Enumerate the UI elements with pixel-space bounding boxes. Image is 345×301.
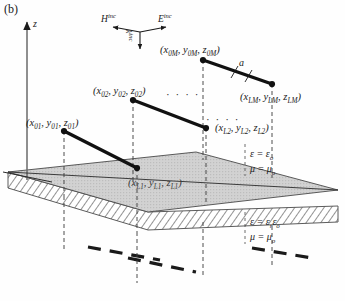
h-inc-symbol: H (101, 14, 108, 24)
dipole-rod-middle (133, 100, 206, 128)
k-inc-superscript: inc (128, 33, 135, 41)
coord-01-y-sub: 01 (51, 123, 58, 131)
upper-eps-symbol: ε (250, 148, 254, 159)
panel-label: (b) (4, 3, 18, 16)
coord-02-z-sub: 02 (135, 91, 142, 99)
image-dipole-1 (88, 247, 160, 260)
lower-eps-symbol: ε (250, 216, 254, 227)
coord-label-0M: (x0M, y0M, z0M) (160, 44, 220, 59)
coord-0M-y-sub: 0M (188, 50, 198, 58)
coord-label-01: (x01, y01, z01) (26, 117, 79, 132)
z-axis-label: z (33, 19, 37, 30)
coord-0M-x-sub: 0M (168, 50, 178, 58)
e-inc-arrow (140, 27, 166, 32)
coord-01-x-sub: 01 (34, 123, 41, 131)
coord-label-LM: (xLM, yLM, zLM) (240, 91, 301, 106)
coord-02-y-sub: 02 (118, 91, 125, 99)
upper-eps-value-sub: o (270, 154, 274, 162)
ellipsis-row-upper: · · · · (166, 88, 200, 100)
coord-02-x-sub: 02 (101, 91, 108, 99)
h-inc-superscript: inc (108, 12, 116, 19)
upper-epsilon-line: ε = εo (250, 148, 275, 163)
dipole-rod-top (203, 60, 272, 84)
lower-eps-o-sub: o (276, 222, 280, 230)
dipole-endpoint-L1 (134, 165, 140, 171)
image-dipole-2 (128, 258, 196, 272)
coord-LM-x-sub: LM (248, 97, 258, 105)
image-dipole-3 (252, 248, 312, 258)
coord-L1-x-sub: L1 (136, 183, 144, 191)
upper-eps-equals: = (256, 148, 263, 159)
coord-label-02: (x02, y02, z02) (93, 85, 146, 100)
e-inc-superscript: inc (164, 12, 172, 19)
coord-L1-z-sub: L1 (171, 183, 179, 191)
coord-0M-z-sub: 0M (207, 50, 217, 58)
upper-mu-line: μ = μo (250, 163, 275, 178)
ellipsis-row-middle: · · · · (206, 113, 240, 125)
coord-L2-x-sub: L2 (223, 128, 231, 136)
dipole-endpoint-L2 (203, 125, 209, 131)
lower-medium-properties: ε = εrεo μ = μo (250, 216, 280, 246)
upper-mu-equals: = (258, 163, 265, 174)
lower-epsilon-line: ε = εrεo (250, 216, 280, 231)
e-inc-label: Einc (158, 13, 172, 25)
coord-L2-z-sub: L2 (258, 128, 266, 136)
lower-mu-symbol: μ (250, 231, 255, 242)
lower-eps-equals: = (256, 216, 263, 227)
coord-label-L1: (xL1, yL1, zL1) (128, 177, 182, 192)
figure-panel-b: (b) z Hinc Einc kinc (x0M, y0M, z0M) (xL… (0, 0, 345, 301)
image-dipoles (88, 247, 312, 272)
h-inc-label: Hinc (101, 13, 116, 25)
dimension-a-label: a (239, 58, 244, 69)
lower-mu-equals: = (258, 231, 265, 242)
upper-mu-value-sub: o (272, 169, 276, 177)
upper-medium-properties: ε = εo μ = μo (250, 148, 275, 178)
dipole-endpoint-LM (269, 81, 275, 87)
incident-field-triad (113, 27, 166, 49)
lower-mu-line: μ = μo (250, 231, 280, 246)
upper-mu-symbol: μ (250, 163, 255, 174)
coord-LM-y-sub: LM (268, 97, 278, 105)
coord-LM-z-sub: LM (287, 97, 297, 105)
coord-L2-y-sub: L2 (241, 128, 249, 136)
k-inc-label: kinc (124, 30, 134, 41)
dipole-elements (61, 57, 275, 171)
lower-mu-value-sub: o (272, 237, 276, 245)
coord-L1-y-sub: L1 (154, 183, 162, 191)
coord-01-z-sub: 01 (68, 123, 75, 131)
